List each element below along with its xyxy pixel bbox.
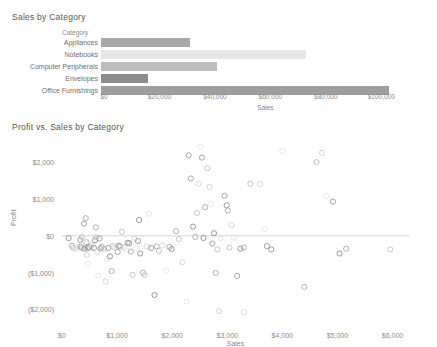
scatter-point[interactable] bbox=[186, 153, 191, 158]
scatter-point[interactable] bbox=[207, 184, 212, 189]
bar-row: Notebooks bbox=[0, 49, 437, 60]
scatter-x-tick: $6,000 bbox=[382, 332, 403, 339]
scatter-x-axis-title: Sales bbox=[62, 340, 409, 347]
scatter-point[interactable] bbox=[319, 150, 324, 155]
bar-chart-title: Sales by Category bbox=[12, 12, 86, 22]
bar-track bbox=[101, 73, 437, 84]
scatter-point[interactable] bbox=[96, 273, 101, 278]
scatter-point[interactable] bbox=[222, 193, 227, 198]
scatter-point[interactable] bbox=[137, 217, 142, 222]
scatter-point[interactable] bbox=[194, 210, 199, 215]
bar-x-tick: $100,000 bbox=[368, 93, 395, 100]
scatter-point[interactable] bbox=[176, 237, 181, 242]
scatter-point[interactable] bbox=[109, 269, 114, 274]
scatter-plot-area bbox=[62, 144, 409, 324]
scatter-point[interactable] bbox=[146, 211, 151, 216]
scatter-point[interactable] bbox=[248, 181, 253, 186]
scatter-point[interactable] bbox=[208, 201, 213, 206]
scatter-point[interactable] bbox=[173, 228, 178, 233]
scatter-point[interactable] bbox=[83, 216, 88, 221]
bar-fill[interactable] bbox=[101, 62, 217, 71]
scatter-point[interactable] bbox=[198, 144, 203, 149]
scatter-point[interactable] bbox=[138, 251, 143, 256]
scatter-point[interactable] bbox=[241, 245, 246, 250]
scatter-point[interactable] bbox=[156, 248, 161, 253]
scatter-point[interactable] bbox=[193, 234, 198, 239]
scatter-point[interactable] bbox=[188, 176, 193, 181]
scatter-point[interactable] bbox=[227, 245, 232, 250]
scatter-point[interactable] bbox=[269, 247, 274, 252]
scatter-point[interactable] bbox=[280, 148, 285, 153]
bar-fill[interactable] bbox=[101, 38, 190, 47]
scatter-point[interactable] bbox=[93, 225, 98, 230]
scatter-point[interactable] bbox=[134, 245, 139, 250]
bar-category-label: Appliances bbox=[0, 39, 101, 46]
scatter-point[interactable] bbox=[152, 292, 157, 297]
scatter-x-tick: $3,000 bbox=[217, 332, 238, 339]
bar-track bbox=[101, 61, 437, 72]
scatter-point[interactable] bbox=[81, 221, 86, 226]
scatter-point[interactable] bbox=[302, 284, 307, 289]
scatter-y-tick: $2,000 bbox=[33, 159, 54, 166]
scatter-point[interactable] bbox=[215, 247, 220, 252]
scatter-point[interactable] bbox=[119, 229, 124, 234]
scatter-point[interactable] bbox=[216, 309, 221, 314]
scatter-point[interactable] bbox=[330, 199, 335, 204]
scatter-point[interactable] bbox=[241, 310, 246, 315]
bar-row: Appliances bbox=[0, 37, 437, 48]
scatter-point[interactable] bbox=[190, 224, 195, 229]
scatter-point[interactable] bbox=[213, 270, 218, 275]
scatter-point[interactable] bbox=[337, 251, 342, 256]
scatter-point[interactable] bbox=[115, 249, 120, 254]
scatter-point[interactable] bbox=[164, 268, 169, 273]
scatter-point[interactable] bbox=[130, 272, 135, 277]
bar-rows: AppliancesNotebooksComputer PeripheralsE… bbox=[0, 37, 437, 97]
bar-row: Computer Peripherals bbox=[0, 61, 437, 72]
scatter-x-tick: $2,000 bbox=[161, 332, 182, 339]
scatter-point[interactable] bbox=[229, 223, 234, 228]
scatter-point[interactable] bbox=[103, 279, 108, 284]
scatter-point[interactable] bbox=[84, 252, 89, 257]
bar-x-tick: $40,000 bbox=[203, 93, 227, 100]
scatter-point[interactable] bbox=[85, 261, 90, 266]
scatter-point[interactable] bbox=[211, 231, 216, 236]
scatter-point[interactable] bbox=[196, 181, 201, 186]
scatter-point[interactable] bbox=[128, 249, 133, 254]
bar-x-axis-title: Sales bbox=[0, 104, 437, 111]
scatter-point[interactable] bbox=[199, 155, 204, 160]
scatter-point[interactable] bbox=[218, 236, 223, 241]
profit-vs-sales-chart: Profit vs. Sales by Category Profit $2,0… bbox=[0, 118, 437, 345]
scatter-point[interactable] bbox=[160, 243, 165, 248]
scatter-point[interactable] bbox=[203, 205, 208, 210]
scatter-point[interactable] bbox=[388, 247, 393, 252]
scatter-point[interactable] bbox=[238, 246, 243, 251]
bar-category-column-header: Category bbox=[62, 29, 88, 36]
bar-category-label: Computer Peripherals bbox=[0, 63, 101, 70]
scatter-point[interactable] bbox=[210, 241, 215, 246]
bar-x-tick: $0 bbox=[100, 93, 107, 100]
scatter-x-tick: $4,000 bbox=[272, 332, 293, 339]
scatter-point[interactable] bbox=[205, 166, 210, 171]
scatter-y-tick: $1,000 bbox=[33, 196, 54, 203]
scatter-y-tick: ($1,000) bbox=[28, 269, 54, 276]
scatter-point[interactable] bbox=[314, 159, 319, 164]
scatter-point[interactable] bbox=[324, 194, 329, 199]
scatter-x-tick: $5,000 bbox=[327, 332, 348, 339]
scatter-x-tick: $0 bbox=[58, 332, 66, 339]
scatter-point[interactable] bbox=[184, 299, 189, 304]
scatter-point[interactable] bbox=[95, 249, 100, 254]
bar-row: Envelopes bbox=[0, 73, 437, 84]
bar-x-axis-title-text: Sales bbox=[257, 104, 273, 111]
bar-category-label: Notebooks bbox=[0, 51, 101, 58]
scatter-chart-title: Profit vs. Sales by Category bbox=[12, 122, 124, 132]
scatter-point[interactable] bbox=[225, 208, 230, 213]
bar-fill[interactable] bbox=[101, 50, 306, 59]
scatter-point[interactable] bbox=[344, 246, 349, 251]
scatter-point[interactable] bbox=[180, 260, 185, 265]
bar-fill[interactable] bbox=[101, 74, 148, 83]
scatter-point[interactable] bbox=[97, 236, 102, 241]
scatter-point[interactable] bbox=[262, 226, 267, 231]
scatter-point[interactable] bbox=[235, 273, 240, 278]
scatter-point[interactable] bbox=[258, 181, 263, 186]
scatter-point[interactable] bbox=[224, 203, 229, 208]
